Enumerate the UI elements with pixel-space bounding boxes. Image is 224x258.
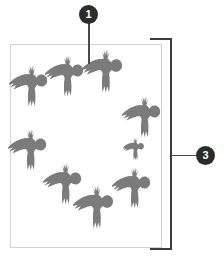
callout-badge-3[interactable]: 3 xyxy=(196,146,215,165)
bracket-top-arm xyxy=(150,38,172,40)
figure-canvas: 1 3 xyxy=(0,0,224,258)
bracket-vertical-line xyxy=(170,38,172,250)
bird-silhouette xyxy=(123,136,147,162)
right-side-bracket xyxy=(150,38,172,250)
callout-3-leader-line xyxy=(172,155,197,156)
callout-badge-1[interactable]: 1 xyxy=(79,5,98,24)
callout-1-leader-line xyxy=(88,22,90,64)
bracket-bottom-arm xyxy=(150,248,172,250)
